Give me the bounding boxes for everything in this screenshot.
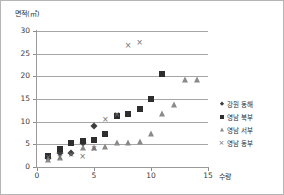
data-point [137, 138, 143, 144]
x-axis-line [37, 167, 209, 168]
data-point [57, 146, 63, 152]
data-point [159, 110, 165, 116]
cross-marker-icon [217, 138, 226, 147]
x-tick-label: 15 [197, 171, 219, 180]
data-point [102, 131, 108, 137]
y-tick-mark [33, 54, 36, 55]
chart-legend: 강원 동해영남 북부영남 서부영남 동부 [217, 97, 283, 149]
data-point [80, 144, 86, 150]
y-tick-mark [33, 144, 36, 145]
gridline [37, 99, 208, 100]
legend-label: 영남 동부 [227, 138, 253, 148]
y-axis-title: 면적(㎡) [15, 8, 39, 18]
y-tick-mark [33, 76, 36, 77]
x-tick-label: 10 [140, 171, 162, 180]
x-tick-label: 5 [83, 171, 105, 180]
data-point [80, 138, 86, 144]
data-point [91, 137, 97, 143]
data-point [171, 101, 177, 107]
plot-area [37, 31, 208, 167]
data-point [125, 111, 131, 117]
data-point [56, 154, 63, 161]
legend-label: 영남 북부 [227, 112, 253, 122]
y-tick-label: 5 [4, 140, 30, 148]
data-point [45, 153, 52, 160]
data-point [125, 140, 131, 146]
chart-container: 면적(㎡) 051015202530 051015 수량 강원 동해영남 북부영… [0, 0, 284, 195]
gridline [37, 31, 208, 32]
y-tick-mark [33, 122, 36, 123]
data-point [102, 143, 108, 149]
y-tick-label: 15 [4, 95, 30, 103]
data-point [194, 76, 200, 82]
data-point [114, 140, 120, 146]
x-tick-label: 0 [26, 171, 48, 180]
data-point [113, 110, 120, 117]
legend-item[interactable]: 영남 북부 [217, 110, 283, 123]
data-point [148, 131, 154, 137]
data-point [136, 39, 143, 46]
y-tick-mark [33, 99, 36, 100]
x-axis-title: 수량 [219, 171, 231, 181]
diamond-marker-icon [217, 99, 226, 108]
gridline [37, 122, 208, 123]
data-point [182, 76, 188, 82]
y-tick-label: 25 [4, 50, 30, 58]
legend-item[interactable]: 영남 동부 [217, 136, 283, 149]
square-marker-icon [217, 112, 226, 121]
data-point [102, 116, 109, 123]
legend-item[interactable]: 영남 서부 [217, 123, 283, 136]
y-tick-label: 30 [4, 27, 30, 35]
data-point [91, 144, 98, 151]
y-tick-label: 20 [4, 72, 30, 80]
legend-label: 영남 서부 [227, 125, 253, 135]
triangle-marker-icon [217, 125, 226, 134]
data-point [137, 106, 143, 112]
legend-item[interactable]: 강원 동해 [217, 97, 283, 110]
y-tick-mark [33, 167, 36, 168]
data-point [68, 140, 74, 146]
y-tick-mark [33, 31, 36, 32]
data-point [159, 71, 165, 77]
data-point [79, 152, 86, 159]
y-tick-label: 10 [4, 118, 30, 126]
gridline [37, 54, 208, 55]
data-point [68, 151, 75, 158]
data-point [125, 42, 132, 49]
y-tick-label: 0 [4, 163, 30, 171]
data-point [148, 96, 154, 102]
legend-label: 강원 동해 [227, 99, 253, 109]
data-point [90, 123, 97, 130]
